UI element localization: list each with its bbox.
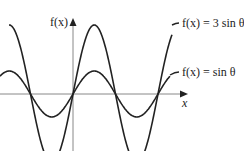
leader-3-sin [172,23,179,25]
annotation-3-sin: f(x) = 3 sin θ [182,16,244,30]
y-axis-label: f(x) [50,15,68,29]
annotation-sin: f(x) = sin θ [182,65,236,79]
y-axis-arrow-icon [70,18,77,26]
sine-chart: f(x) x f(x) = 3 sin θ f(x) = sin θ [0,0,244,151]
leader-sin [170,72,179,75]
curve-3-sin [9,25,172,151]
x-axis-label: x [181,96,188,110]
